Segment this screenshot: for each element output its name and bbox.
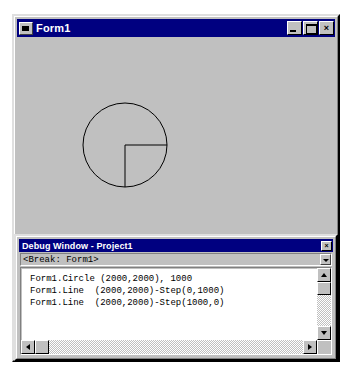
debug-window-titlebar[interactable]: Debug Window - Project1 × (19, 239, 333, 252)
arrow-up-glyph (321, 273, 327, 277)
debug-window-title: Debug Window - Project1 (22, 241, 321, 251)
form1-drawing (17, 39, 335, 249)
arrow-down-glyph (321, 331, 327, 335)
debug-window[interactable]: Debug Window - Project1 × <Break: Form1>… (14, 234, 338, 361)
code-line: Form1.Line (2000,2000)-Step(0,1000) (30, 285, 317, 297)
scroll-up-arrow-icon[interactable] (317, 268, 331, 282)
scroll-down-arrow-icon[interactable] (317, 326, 331, 340)
maximize-button[interactable] (303, 21, 318, 35)
vertical-scrollbar-thumb[interactable] (317, 282, 331, 295)
arrow-left-glyph (26, 344, 30, 350)
horizontal-scrollbar[interactable] (21, 340, 317, 354)
chevron-down-icon[interactable] (320, 254, 331, 265)
code-line: Form1.Circle (2000,2000), 1000 (30, 273, 317, 285)
debug-window-frame: Debug Window - Project1 × <Break: Form1>… (16, 236, 336, 359)
screenshot-root: Form1 × Debug Window - Project1 (0, 0, 352, 385)
form1-window-buttons: × (287, 21, 334, 35)
scroll-left-arrow-icon[interactable] (21, 340, 35, 354)
form-window-icon (19, 22, 33, 35)
scrollbar-corner (317, 340, 331, 354)
arrow-right-glyph (308, 344, 312, 350)
code-line: Form1.Line (2000,2000)-Step(1000,0) (30, 297, 317, 309)
vertical-scrollbar[interactable] (317, 268, 331, 340)
debug-output-frame: Form1.Circle (2000,2000), 1000 Form1.Lin… (20, 267, 332, 355)
debug-close-button[interactable]: × (321, 241, 332, 251)
form1-title: Form1 (36, 22, 287, 34)
close-button[interactable]: × (319, 21, 334, 35)
form1-titlebar[interactable]: Form1 × (17, 19, 335, 37)
scroll-right-arrow-icon[interactable] (303, 340, 317, 354)
debug-context-combobox[interactable]: <Break: Form1> (20, 253, 332, 266)
horizontal-scrollbar-track[interactable] (35, 340, 303, 354)
debug-output-text[interactable]: Form1.Circle (2000,2000), 1000 Form1.Lin… (22, 269, 317, 340)
horizontal-scrollbar-thumb[interactable] (35, 340, 49, 354)
minimize-button[interactable] (287, 21, 302, 35)
debug-context-label: <Break: Form1> (21, 255, 320, 265)
